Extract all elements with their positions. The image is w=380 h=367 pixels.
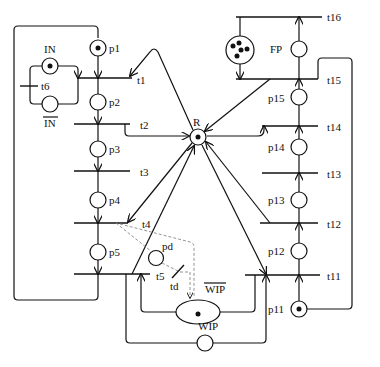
label-p11: p11 — [268, 303, 284, 315]
token-pool-4 — [245, 47, 250, 52]
token-pool-1 — [231, 44, 236, 49]
arc-t1-IN-bar — [58, 78, 78, 104]
token-pool-2 — [237, 41, 242, 46]
label-p13: p13 — [268, 194, 285, 206]
arc-t12-R — [206, 142, 270, 223]
label-td: td — [170, 280, 179, 292]
label-R: R — [193, 116, 201, 128]
label-p14: p14 — [268, 141, 285, 153]
arc-R-t4 — [128, 143, 192, 222]
label-p3: p3 — [109, 143, 121, 155]
place-FP — [291, 41, 307, 57]
token-IN — [48, 64, 53, 69]
arc-t11-WIP-bar — [220, 275, 255, 312]
place-p2 — [90, 94, 106, 110]
token-p11 — [297, 307, 302, 312]
label-t11: t11 — [327, 270, 341, 282]
label-p15: p15 — [268, 92, 285, 104]
arc-t2-R — [125, 124, 189, 136]
label-p12: p12 — [268, 245, 285, 257]
label-t12: t12 — [327, 218, 341, 230]
label-WIP-bar: WIP — [205, 283, 225, 295]
place-IN-bar — [42, 96, 58, 112]
label-p2: p2 — [109, 96, 120, 108]
label-t4: t4 — [142, 218, 151, 230]
label-p5: p5 — [109, 246, 121, 258]
label-IN-bar: IN — [44, 117, 56, 129]
place-p13 — [291, 192, 307, 208]
place-WIP — [197, 335, 213, 351]
token-p1 — [96, 46, 101, 51]
token-pool-5 — [235, 54, 240, 59]
token-pool-3 — [239, 48, 244, 53]
arc-R-t14 — [207, 126, 264, 136]
arc-R-t1 — [130, 49, 193, 130]
label-p1: p1 — [109, 42, 120, 54]
place-p15 — [291, 89, 307, 105]
label-t3: t3 — [140, 166, 149, 178]
place-p12 — [291, 243, 307, 259]
place-p5 — [90, 244, 106, 260]
label-t6: t6 — [41, 80, 50, 92]
label-p4: p4 — [109, 194, 121, 206]
label-FP: FP — [270, 43, 282, 55]
label-t1: t1 — [137, 74, 146, 86]
label-WIP: WIP — [198, 320, 218, 332]
arc-R-t11 — [202, 145, 266, 274]
place-p3 — [90, 141, 106, 157]
label-t13: t13 — [327, 168, 342, 180]
label-t5: t5 — [156, 270, 165, 282]
transition-td — [172, 265, 184, 278]
place-p14 — [291, 139, 307, 155]
arc-t15-R — [205, 79, 270, 131]
arc-IN-t1 — [58, 66, 78, 78]
token-WIP-bar — [196, 312, 201, 317]
label-t14: t14 — [327, 121, 342, 133]
dashed-arc-td-WIP-bar — [180, 272, 190, 298]
token-R — [196, 135, 201, 140]
label-t15: t15 — [327, 74, 342, 86]
place-p4 — [90, 192, 106, 208]
label-t16: t16 — [327, 11, 342, 23]
label-pd: pd — [162, 240, 174, 252]
label-IN: IN — [44, 43, 56, 55]
label-t2: t2 — [140, 119, 149, 131]
place-pd — [149, 251, 164, 266]
petri-net-diagram: p1 p2 p3 p4 p5 t1 t2 t3 t4 t5 t6 IN IN R — [0, 0, 380, 367]
